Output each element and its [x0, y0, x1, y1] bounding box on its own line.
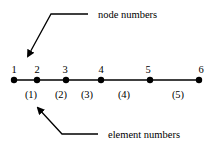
node-number-1: 1 — [11, 64, 16, 75]
element-numbers-arrow-icon — [38, 108, 98, 134]
node-1 — [11, 77, 17, 83]
element-number-3: (3) — [81, 89, 94, 101]
element-number-2: (2) — [55, 89, 68, 101]
element-number-4: (4) — [118, 89, 131, 101]
element-number-1: (1) — [25, 89, 38, 101]
node-5 — [147, 77, 153, 83]
node-3 — [63, 77, 69, 83]
finite-element-diagram: node numbers 1 2 3 4 5 6 (1) (2) (3) (4) — [0, 0, 214, 147]
node-number-3: 3 — [62, 64, 67, 75]
node-numbers-arrow-icon — [28, 14, 88, 56]
node-4 — [98, 77, 104, 83]
element-numbers-label: element numbers — [108, 129, 180, 140]
node-numbers-label: node numbers — [98, 9, 157, 20]
node-number-5: 5 — [145, 64, 150, 75]
node-6 — [196, 77, 202, 83]
element-number-5: (5) — [172, 89, 185, 101]
node-2 — [34, 77, 40, 83]
node-number-2: 2 — [34, 64, 39, 75]
node-number-6: 6 — [198, 64, 203, 75]
node-number-4: 4 — [98, 64, 104, 75]
